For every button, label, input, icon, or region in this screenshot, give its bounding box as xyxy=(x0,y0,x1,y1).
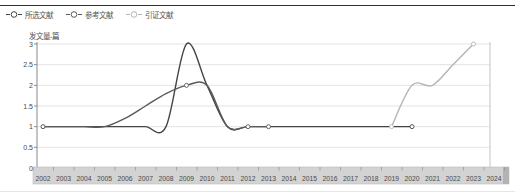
year-label: 2004 xyxy=(76,175,91,182)
y-tick-label: 3 xyxy=(29,41,33,48)
data-point-citations-2023[interactable] xyxy=(472,42,476,46)
year-label: 2013 xyxy=(261,175,276,182)
y-tick-label: 2 xyxy=(29,82,33,89)
y-tick-label: 0 xyxy=(29,165,33,172)
year-label: 2002 xyxy=(35,175,50,182)
y-axis-tick-labels: 00.511.522.53 xyxy=(23,41,33,172)
year-label: 2019 xyxy=(384,175,399,182)
year-label: 2020 xyxy=(404,175,419,182)
y-tick-label: 2.5 xyxy=(23,61,33,68)
x-axis-year-labels: 2002200320042005200620072008200920102011… xyxy=(35,175,501,182)
data-point-references-2013[interactable] xyxy=(267,125,271,129)
data-point-selected-2020[interactable] xyxy=(410,125,414,129)
data-point-references-2009[interactable] xyxy=(185,83,189,87)
year-label: 2012 xyxy=(240,175,255,182)
series-selected-line[interactable] xyxy=(43,43,412,133)
year-label: 2016 xyxy=(322,175,337,182)
year-label: 2015 xyxy=(302,175,317,182)
data-point-citations-2019[interactable] xyxy=(390,125,394,129)
y-axis xyxy=(34,42,37,168)
band-right-handle[interactable] xyxy=(503,167,509,184)
trend-line-chart: 00.511.522.53200220032004200520062007200… xyxy=(0,0,515,196)
year-label: 2017 xyxy=(343,175,358,182)
year-label: 2010 xyxy=(199,175,214,182)
year-label: 2011 xyxy=(220,175,235,182)
data-point-selected-2002[interactable] xyxy=(41,125,45,129)
publication-trend-chart-panel: 所选文献 参考文献 引证文献 发文量-篇 00.511.522.53200220… xyxy=(0,0,515,196)
year-label: 2024 xyxy=(486,175,501,182)
year-label: 2008 xyxy=(158,175,173,182)
year-label: 2021 xyxy=(425,175,440,182)
year-label: 2009 xyxy=(179,175,194,182)
bottom-divider xyxy=(0,191,515,192)
y-tick-label: 1.5 xyxy=(23,103,33,110)
year-label: 2006 xyxy=(117,175,132,182)
year-label: 2022 xyxy=(445,175,460,182)
data-point-references-2012[interactable] xyxy=(246,125,250,129)
year-label: 2003 xyxy=(56,175,71,182)
y-tick-label: 1 xyxy=(29,123,33,130)
year-label: 2023 xyxy=(466,175,481,182)
gridlines xyxy=(37,44,490,147)
year-label: 2007 xyxy=(138,175,153,182)
year-label: 2018 xyxy=(363,175,378,182)
y-tick-label: 0.5 xyxy=(23,144,33,151)
year-label: 2005 xyxy=(97,175,112,182)
year-label: 2014 xyxy=(281,175,296,182)
